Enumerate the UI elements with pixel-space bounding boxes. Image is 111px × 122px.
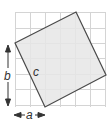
pythagorean-diagram: b a c [0, 0, 111, 122]
b-label: b [4, 69, 11, 83]
c-label: c [33, 65, 39, 79]
tilted-square [15, 12, 106, 107]
a-label: a [26, 108, 33, 122]
